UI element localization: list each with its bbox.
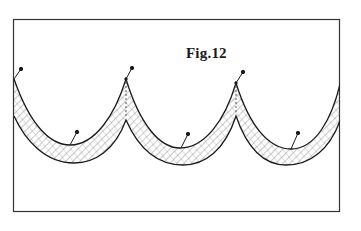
pin-icon xyxy=(70,130,79,145)
pin-icon xyxy=(235,70,245,84)
swag-band-2-overlay xyxy=(126,79,236,165)
figure-canvas xyxy=(0,0,361,231)
pin-icon xyxy=(14,67,23,79)
swag-top-edge xyxy=(14,79,341,149)
pin-icon xyxy=(125,66,134,80)
pin-icon xyxy=(291,131,300,149)
swag-band-1-overlay xyxy=(14,79,126,163)
figure-label: Fig.12 xyxy=(186,45,227,62)
figure-frame xyxy=(14,20,340,212)
pin-icon xyxy=(181,132,190,148)
